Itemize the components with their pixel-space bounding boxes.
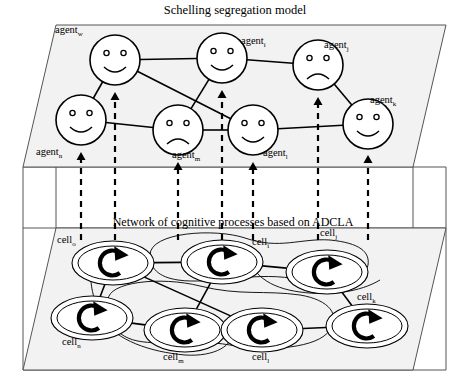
cell-node-j[interactable] xyxy=(286,250,368,294)
agent-eye-right-icon xyxy=(228,48,233,53)
agent-node-n[interactable] xyxy=(56,95,106,145)
cell-ellipse-outer xyxy=(72,241,154,285)
cell-node-m[interactable] xyxy=(144,308,226,352)
cell-ellipse-outer xyxy=(286,250,368,294)
schelling-adcla-diagram: agentwagentiagentjagentnagentmagentlagen… xyxy=(0,0,470,382)
cell-ellipse-outer xyxy=(221,308,303,352)
cell-ellipse-outer xyxy=(326,304,408,348)
cell-node-k[interactable] xyxy=(326,304,408,348)
agent-face-circle xyxy=(197,33,247,83)
agent-node-m[interactable] xyxy=(153,105,203,155)
agent-node-w[interactable] xyxy=(90,35,140,85)
cell-ellipse-outer xyxy=(51,296,133,340)
cell-node-l[interactable] xyxy=(221,308,303,352)
cell-ellipse-outer xyxy=(144,308,226,352)
agent-eye-left-icon xyxy=(242,120,247,125)
cell-node-n[interactable] xyxy=(51,296,133,340)
cell-edge xyxy=(303,328,326,329)
agent-eye-left-icon xyxy=(70,110,75,115)
diagram-canvas: agentwagentiagentjagentnagentmagentlagen… xyxy=(0,0,470,382)
agent-eye-right-icon xyxy=(87,110,92,115)
agent-edge xyxy=(140,58,197,59)
agent-node-i[interactable] xyxy=(197,33,247,83)
agent-eye-left-icon xyxy=(167,120,172,125)
agent-face-circle xyxy=(153,105,203,155)
agent-eye-left-icon xyxy=(357,114,362,119)
agent-face-circle xyxy=(56,95,106,145)
agent-face-circle xyxy=(90,35,140,85)
cell-ellipse-outer xyxy=(181,240,263,284)
cell-node-o[interactable] xyxy=(72,241,154,285)
figure-title: Schelling segregation model xyxy=(164,3,307,17)
agent-eye-right-icon xyxy=(121,50,126,55)
agent-eye-right-icon xyxy=(259,120,264,125)
cell-node-i[interactable] xyxy=(181,240,263,284)
agent-node-k[interactable] xyxy=(343,99,393,149)
agent-eye-left-icon xyxy=(211,48,216,53)
agent-eye-right-icon xyxy=(324,55,329,60)
agent-eye-left-icon xyxy=(307,55,312,60)
agent-eye-right-icon xyxy=(374,114,379,119)
bottom-layer-title: Network of cognitive processes based on … xyxy=(113,215,354,229)
agent-eye-right-icon xyxy=(184,120,189,125)
agent-face-circle xyxy=(343,99,393,149)
agent-eye-left-icon xyxy=(104,50,109,55)
